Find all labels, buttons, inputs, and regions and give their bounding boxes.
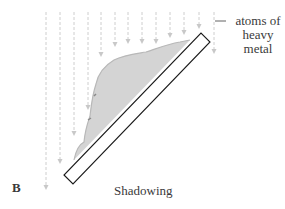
arrow-head-icon	[154, 39, 159, 44]
arrow-head-icon	[113, 42, 118, 47]
arrow-head-icon	[126, 39, 131, 44]
arrow-head-icon	[212, 49, 217, 54]
figure-caption: Shadowing	[114, 183, 173, 199]
arrow-head-icon	[58, 159, 63, 164]
arrow-head-icon	[197, 24, 202, 29]
arrow-head-icon	[182, 30, 187, 35]
arrow-head-icon	[168, 33, 173, 38]
panel-label: B	[12, 180, 21, 196]
arrow-head-icon	[44, 185, 49, 190]
annotation-line-2: heavy	[228, 28, 285, 42]
atoms-annotation: atoms of heavy metal	[228, 14, 285, 56]
arrow-head-icon	[86, 105, 91, 110]
arrow-head-icon	[72, 131, 77, 136]
annotation-line-1: atoms of	[228, 14, 285, 28]
arrow-head-icon	[99, 52, 104, 57]
annotation-line-3: metal	[228, 42, 285, 56]
arrow-head-icon	[140, 39, 145, 44]
